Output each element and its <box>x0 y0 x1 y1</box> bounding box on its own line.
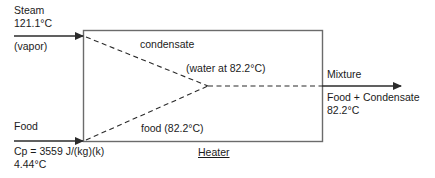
diagram-canvas: Steam 121.1°C (vapor) Food Cp = 3559 J/(… <box>0 0 435 178</box>
mixture-outlet-temperature: 82.2°C <box>327 104 359 117</box>
steam-inlet-title: Steam <box>14 4 44 17</box>
food-inlet-heat-capacity: Cp = 3559 J/(kg)(k) <box>14 145 104 158</box>
food-inlet-temperature: 4.44°C <box>14 158 46 171</box>
condensate-stream-label: condensate <box>140 38 194 51</box>
food-inlet-title: Food <box>14 120 38 133</box>
food-stream-label: food (82.2°C) <box>141 122 204 135</box>
mixture-outlet-title: Mixture <box>327 68 361 81</box>
condensate-water-temperature-label: (water at 82.2°C) <box>186 62 265 75</box>
steam-inlet-phase: (vapor) <box>14 40 47 53</box>
mixture-outlet-composition: Food + Condensate <box>327 91 420 104</box>
heater-caption: Heater <box>198 146 230 159</box>
steam-inlet-temperature: 121.1°C <box>14 17 52 30</box>
